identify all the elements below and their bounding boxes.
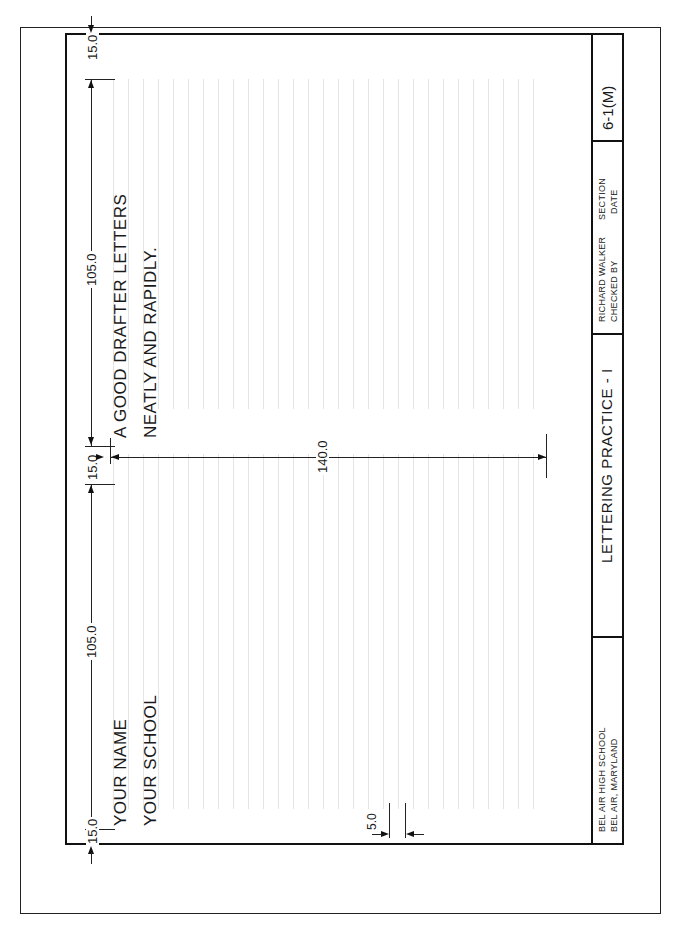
dim-block-height: 140.0	[316, 438, 329, 475]
arrow-right-icon	[381, 831, 389, 837]
sheet-number: 6-1(M)	[599, 86, 616, 130]
ext-line	[372, 834, 382, 835]
bottom-ext-line	[91, 852, 92, 864]
checker-name: RICHARD WALKER	[597, 237, 607, 322]
title-block-divider	[591, 333, 624, 335]
practice-left-line1: YOUR NAME	[111, 719, 131, 826]
arrow-left-icon	[111, 454, 119, 460]
arrow-right-icon	[538, 454, 546, 460]
ext-line	[414, 834, 424, 835]
dim-right-block-length: 105.0	[85, 251, 98, 288]
arrow-right-icon	[96, 454, 104, 460]
dim-left-block-length: 105.0	[85, 623, 98, 660]
section-field: SECTION	[597, 178, 607, 220]
dim-margin-top: 15.0	[86, 33, 99, 62]
school-line1: BEL AIR HIGH SCHOOL	[597, 727, 607, 832]
practice-right-line1: A GOOD DRAFTER LETTERS	[111, 194, 131, 438]
dim-margin-bottom: 15.0	[86, 817, 99, 846]
arrow-up-icon	[88, 485, 94, 493]
school-line2: BEL AIR, MARYLAND	[609, 738, 619, 832]
arrow-down-icon	[88, 437, 94, 445]
guide-block-right	[113, 79, 545, 409]
arrow-up-icon	[88, 80, 94, 88]
arrow-left-icon	[406, 831, 414, 837]
ext-line	[110, 438, 111, 464]
practice-right-line2: NEATLY AND RAPIDLY.	[141, 247, 161, 438]
ext-line	[546, 434, 547, 478]
sheet-title: LETTERING PRACTICE - I	[598, 368, 616, 563]
ext-line	[389, 803, 390, 838]
dim-line-spacing: 5.0	[366, 811, 379, 832]
date-field: DATE	[609, 189, 619, 214]
title-block-divider	[591, 140, 624, 142]
checker-label: CHECKED BY	[609, 260, 619, 322]
practice-left-line2: YOUR SCHOOL	[141, 695, 161, 826]
title-block-divider	[591, 636, 624, 638]
guide-block-left	[113, 454, 545, 809]
